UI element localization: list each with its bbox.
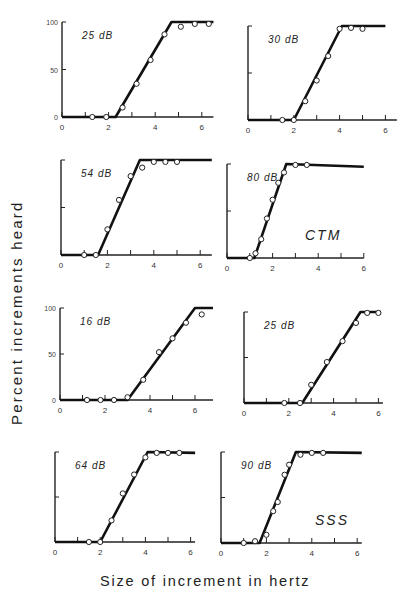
level-label: 80 dB (247, 172, 278, 183)
x-tick-label: 6 (193, 406, 198, 415)
panel-row2-left: 024654 dB (59, 159, 212, 270)
data-point (165, 450, 170, 455)
data-point (264, 532, 269, 537)
data-point (151, 159, 156, 164)
x-tick-label: 0 (60, 123, 65, 132)
x-tick-label: 6 (188, 548, 193, 557)
level-label: 25 dB (81, 30, 113, 41)
data-point (116, 197, 121, 202)
data-point (199, 312, 204, 317)
y-tick-label: 100 (44, 305, 56, 312)
data-point (174, 159, 179, 164)
y-tick-label: 0 (54, 114, 58, 121)
data-point (111, 397, 116, 402)
x-tick-label: 4 (153, 123, 158, 132)
x-tick-label: 4 (152, 261, 157, 270)
data-point (156, 350, 161, 355)
data-point (309, 450, 314, 455)
data-point (287, 462, 292, 467)
data-point (241, 540, 246, 545)
data-point (293, 162, 298, 167)
y-tick-label: 50 (48, 351, 56, 358)
data-point (309, 382, 314, 387)
data-point (132, 472, 137, 477)
y-tick-label: 50 (50, 67, 58, 74)
data-point (340, 339, 345, 344)
x-tick-label: 0 (59, 261, 64, 270)
panel-row3-left: 050100024616 dB (44, 305, 213, 415)
x-tick-label: 2 (264, 549, 269, 558)
data-point (148, 57, 153, 62)
data-point (326, 53, 331, 58)
x-tick-label: 2 (270, 264, 275, 273)
x-tick-label: 2 (98, 548, 103, 557)
x-tick-label: 0 (225, 264, 230, 273)
y-axis-label: Percent increments heard (8, 200, 25, 425)
panel-row2-right: 024680 dBCTM (225, 162, 367, 273)
x-tick-label: 0 (246, 126, 251, 135)
data-point (291, 117, 296, 122)
x-tick-label: 6 (362, 264, 367, 273)
data-point (84, 397, 89, 402)
y-tick-label: 0 (52, 397, 56, 404)
subject-label: CTM (305, 227, 341, 243)
data-point (192, 21, 197, 26)
panel-row1-right: 024630 dB (246, 25, 397, 135)
x-tick-label: 6 (355, 549, 360, 558)
data-point (271, 509, 276, 514)
data-point (98, 539, 103, 544)
x-tick-label: 2 (105, 261, 110, 270)
level-label: 30 dB (268, 34, 299, 45)
level-label: 64 dB (75, 460, 106, 471)
data-point (154, 450, 159, 455)
data-point (353, 320, 358, 325)
data-point (297, 400, 302, 405)
x-tick-label: 0 (242, 409, 247, 418)
x-tick-label: 4 (316, 264, 321, 273)
data-point (298, 452, 303, 457)
data-point (86, 539, 91, 544)
x-tick-label: 4 (148, 406, 153, 415)
data-point (178, 24, 183, 29)
data-point (360, 26, 365, 31)
data-point (247, 255, 252, 260)
data-point (105, 227, 110, 232)
panel-row4-right: 024690 dBSSS (219, 450, 362, 558)
psychometric-figure: 050100024625 dB024630 dB024654 dB024680 … (0, 0, 403, 607)
data-point (163, 159, 168, 164)
panel-row3-right: 024625 dB (242, 310, 383, 418)
data-point (275, 499, 280, 504)
x-tick-label: 4 (337, 126, 342, 135)
data-point (177, 450, 182, 455)
x-tick-label: 2 (287, 409, 292, 418)
x-tick-label: 2 (103, 406, 108, 415)
level-label: 25 dB (263, 320, 295, 331)
x-tick-label: 6 (376, 409, 381, 418)
panel-row4-left: 024664 dB (53, 450, 195, 557)
data-point (270, 197, 275, 202)
data-point (183, 320, 188, 325)
subject-label: SSS (315, 512, 349, 528)
data-point (348, 25, 353, 30)
data-point (314, 78, 319, 83)
data-point (93, 252, 98, 257)
x-tick-label: 4 (331, 409, 336, 418)
data-point (253, 251, 258, 256)
x-tick-label: 2 (106, 123, 111, 132)
data-point (104, 114, 109, 119)
data-point (280, 117, 285, 122)
data-point (282, 472, 287, 477)
x-tick-label: 4 (143, 548, 148, 557)
data-point (140, 165, 145, 170)
x-tick-label: 0 (58, 406, 63, 415)
data-point (282, 400, 287, 405)
data-point (143, 455, 148, 460)
data-point (120, 491, 125, 496)
data-point (321, 450, 326, 455)
x-axis-label: Size of increment in hertz (100, 573, 310, 589)
data-point (303, 99, 308, 104)
data-point (259, 237, 264, 242)
data-point (128, 174, 133, 179)
x-tick-label: 4 (310, 549, 315, 558)
data-point (170, 336, 175, 341)
